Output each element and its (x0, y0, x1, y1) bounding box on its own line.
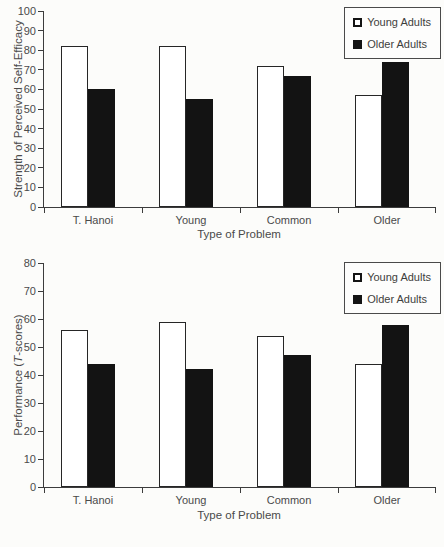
x-category-label: T. Hanoi (44, 214, 142, 226)
y-axis-tick-label: 80 (8, 43, 36, 57)
y-axis-tick-label: 30 (8, 141, 36, 155)
y-axis-tick-label: 50 (8, 340, 36, 354)
open-square-icon (353, 18, 362, 27)
legend-item-young-adults: Young Adults (353, 16, 431, 28)
x-axis-title: Type of Problem (43, 228, 435, 240)
bar-young-adults (355, 364, 382, 487)
bar-young-adults (257, 336, 284, 487)
bar-young-adults (159, 322, 186, 487)
legend-label: Young Adults (367, 271, 431, 283)
y-axis-tick (38, 30, 44, 31)
x-axis-tick (44, 207, 45, 213)
legend-item-older-adults: Older Adults (353, 38, 431, 50)
y-axis-tick-label: 0 (8, 200, 36, 214)
bar-young-adults (355, 95, 382, 207)
legend: Young AdultsOlder Adults (344, 262, 441, 314)
x-axis-tick (142, 487, 143, 493)
x-axis-tick (44, 487, 45, 493)
bar-older-adults (382, 325, 409, 487)
x-category-label: Common (240, 494, 338, 506)
x-axis-tick (240, 487, 241, 493)
filled-square-icon (353, 40, 362, 49)
bar-older-adults (186, 369, 213, 487)
y-axis-tick-label: 100 (8, 4, 36, 18)
y-axis-tick (38, 291, 44, 292)
y-axis-tick-label: 60 (8, 82, 36, 96)
x-category-label: Young (142, 494, 240, 506)
y-axis-tick (38, 459, 44, 460)
x-axis-tick (338, 207, 339, 213)
legend: Young AdultsOlder Adults (344, 7, 441, 59)
bar-older-adults (88, 364, 115, 487)
bar-older-adults (284, 355, 311, 487)
y-axis-title-italic: T (12, 356, 24, 363)
y-axis-tick-label: 60 (8, 312, 36, 326)
y-axis-tick (38, 167, 44, 168)
y-axis-tick-label: 20 (8, 161, 36, 175)
y-axis-tick-label: 40 (8, 122, 36, 136)
x-axis-tick (240, 207, 241, 213)
x-category-label: Common (240, 214, 338, 226)
x-axis-tick (338, 487, 339, 493)
y-axis-tick (38, 109, 44, 110)
y-axis-tick-label: 0 (8, 480, 36, 494)
y-axis-tick (38, 403, 44, 404)
y-axis-tick (38, 263, 44, 264)
x-axis-title: Type of Problem (43, 509, 435, 521)
legend-label: Older Adults (367, 293, 427, 305)
y-axis-tick-label: 40 (8, 368, 36, 382)
y-axis-tick (38, 431, 44, 432)
bar-young-adults (159, 46, 186, 207)
bar-young-adults (61, 46, 88, 207)
y-axis-tick (38, 11, 44, 12)
y-axis-tick-label: 10 (8, 180, 36, 194)
y-axis-tick-label: 70 (8, 284, 36, 298)
x-axis-tick (435, 487, 436, 493)
x-axis-tick (142, 207, 143, 213)
y-axis-tick (38, 50, 44, 51)
y-axis-tick-label: 70 (8, 63, 36, 77)
y-axis-tick (38, 347, 44, 348)
y-axis-tick (38, 319, 44, 320)
x-category-label: T. Hanoi (44, 494, 142, 506)
y-axis-tick-label: 90 (8, 24, 36, 38)
x-category-label: Older (338, 214, 436, 226)
y-axis-tick (38, 89, 44, 90)
legend-label: Older Adults (367, 38, 427, 50)
y-axis-tick-label: 20 (8, 424, 36, 438)
open-square-icon (353, 273, 362, 282)
y-axis-tick (38, 187, 44, 188)
y-axis-tick-label: 80 (8, 256, 36, 270)
bar-young-adults (257, 66, 284, 207)
bar-older-adults (186, 99, 213, 207)
x-category-label: Young (142, 214, 240, 226)
legend-item-older-adults: Older Adults (353, 293, 431, 305)
legend-item-young-adults: Young Adults (353, 271, 431, 283)
bar-young-adults (61, 330, 88, 487)
y-axis-tick (38, 128, 44, 129)
y-axis-tick (38, 375, 44, 376)
filled-square-icon (353, 295, 362, 304)
y-axis-tick-label: 10 (8, 452, 36, 466)
y-axis-tick (38, 69, 44, 70)
bar-older-adults (284, 76, 311, 207)
y-axis-tick (38, 148, 44, 149)
self-efficacy-chart: Strength of Perceived Self-Efficacy 0102… (0, 0, 444, 252)
y-axis-tick-label: 30 (8, 396, 36, 410)
x-axis-tick (435, 207, 436, 213)
bar-older-adults (88, 89, 115, 207)
legend-label: Young Adults (367, 16, 431, 28)
y-axis-tick-label: 50 (8, 102, 36, 116)
performance-chart: Performance (T-scores) 01020304050607080… (0, 252, 444, 547)
x-category-label: Older (338, 494, 436, 506)
bar-older-adults (382, 62, 409, 207)
